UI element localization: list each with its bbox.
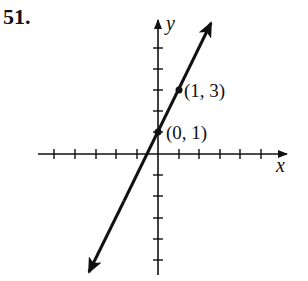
graph-line (124, 23, 211, 201)
y-axis-label: y (164, 12, 175, 35)
coordinate-graph: y x (1, 3) (0, 1) (0, 0, 308, 281)
point-1-3 (176, 87, 183, 94)
point-label-1-3: (1, 3) (184, 80, 225, 102)
point-label-0-1: (0, 1) (166, 122, 207, 144)
x-axis-label: x (275, 154, 285, 176)
graph-line-lower (89, 201, 124, 272)
point-0-1 (155, 129, 162, 136)
